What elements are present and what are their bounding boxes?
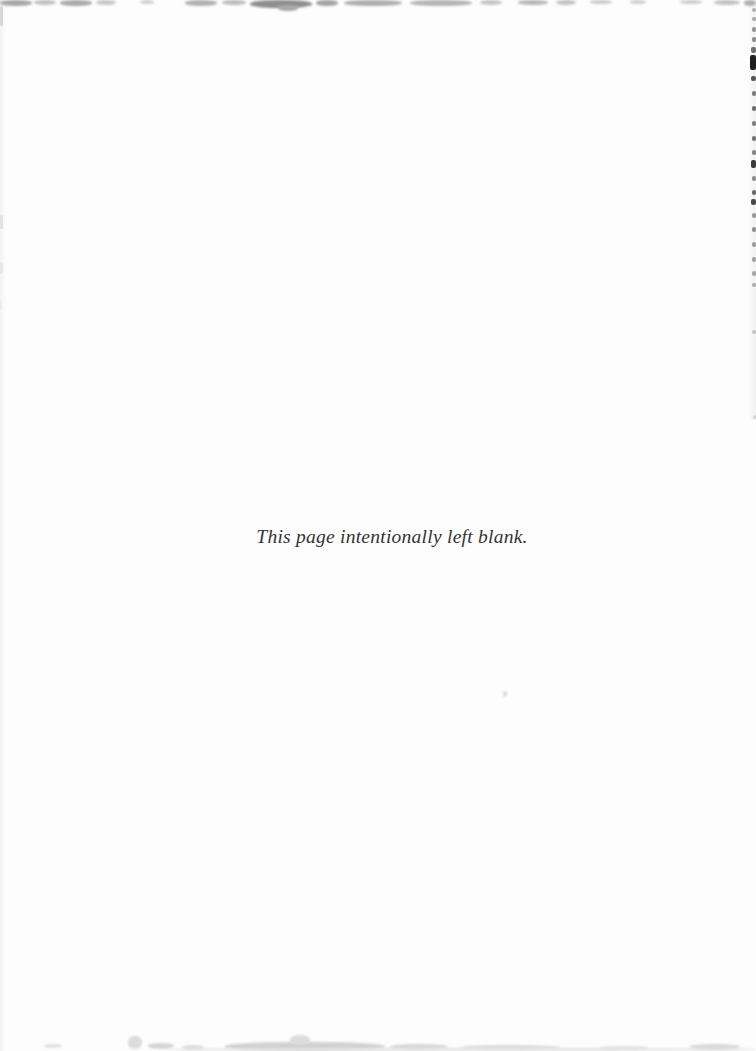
right-edge-bleed-mark xyxy=(752,8,756,12)
right-edge-bleed-mark xyxy=(751,76,756,81)
right-edge-bleed-mark xyxy=(752,17,756,21)
bottom-edge-scan-smudge xyxy=(290,1035,310,1045)
right-edge-bleed-mark xyxy=(752,91,756,96)
top-edge-scan-smudge xyxy=(0,0,32,6)
bottom-edge-scan-smudge xyxy=(128,1036,142,1049)
top-edge-scan-smudge xyxy=(278,5,298,11)
top-edge-scan-smudge xyxy=(680,0,702,4)
paper-speck xyxy=(503,691,507,697)
top-edge-scan-smudge xyxy=(344,0,402,6)
top-edge-scan-smudge xyxy=(556,0,576,5)
left-edge-shading xyxy=(0,0,6,1051)
top-edge-scan-smudge xyxy=(222,0,246,5)
bottom-edge-scan-smudge xyxy=(44,1044,62,1048)
bottom-edge-scan-smudge xyxy=(600,1046,648,1050)
right-edge-bleed-mark xyxy=(752,330,756,334)
right-edge-bleed-mark xyxy=(752,176,756,181)
right-edge-shading xyxy=(748,0,756,420)
right-edge-bleed-mark xyxy=(752,150,756,155)
right-edge-bleed-mark xyxy=(752,213,756,218)
top-edge-scan-smudge xyxy=(744,0,756,6)
top-edge-scan-smudge xyxy=(34,0,56,5)
right-edge-bleed-mark xyxy=(752,121,756,126)
right-edge-bleed-mark xyxy=(751,199,756,205)
top-edge-scan-smudge xyxy=(60,0,92,6)
top-edge-scan-smudge xyxy=(480,0,502,5)
bottom-edge-scan-smudge xyxy=(148,1043,174,1049)
right-edge-bleed-mark xyxy=(751,160,756,168)
top-edge-scan-smudge xyxy=(140,0,154,4)
top-edge-scan-smudge xyxy=(518,0,548,5)
right-edge-bleed-mark xyxy=(752,242,756,247)
right-edge-bleed-mark xyxy=(751,47,756,53)
top-edge-scan-smudge xyxy=(316,0,338,6)
scanned-blank-page: This page intentionally left blank. xyxy=(0,0,756,1051)
bottom-edge-scan-smudge xyxy=(390,1044,448,1050)
bottom-edge-scan-smudge xyxy=(690,1044,740,1050)
right-edge-bleed-mark xyxy=(752,271,756,276)
top-edge-scan-smudge xyxy=(590,0,612,4)
right-edge-bleed-mark xyxy=(750,55,756,70)
left-edge-bleed-mark xyxy=(0,215,3,229)
left-edge-bleed-mark xyxy=(0,262,3,274)
right-edge-bleed-mark xyxy=(752,190,756,195)
bottom-edge-scan-smudge xyxy=(460,1045,560,1050)
top-edge-scan-smudge xyxy=(250,0,312,8)
bottom-edge-scan-smudge xyxy=(182,1045,204,1050)
intentionally-blank-text: This page intentionally left blank. xyxy=(256,524,527,550)
right-edge-bleed-mark xyxy=(752,136,756,141)
right-edge-bleed-mark xyxy=(752,37,756,42)
right-edge-bleed-mark xyxy=(752,106,756,111)
top-edge-scan-smudge xyxy=(96,0,116,5)
top-edge-scan-smudge xyxy=(630,0,646,4)
right-edge-bleed-mark xyxy=(752,27,756,32)
bottom-edge-scan-smudge xyxy=(225,1042,385,1051)
left-edge-bleed-mark xyxy=(0,300,2,310)
top-edge-scan-smudge xyxy=(410,0,472,6)
top-edge-scan-smudge xyxy=(714,0,740,5)
right-edge-bleed-mark xyxy=(752,283,756,287)
left-edge-bleed-mark xyxy=(0,6,3,26)
right-edge-bleed-mark xyxy=(752,257,756,262)
top-edge-scan-smudge xyxy=(185,0,217,6)
right-edge-bleed-mark xyxy=(752,227,756,232)
